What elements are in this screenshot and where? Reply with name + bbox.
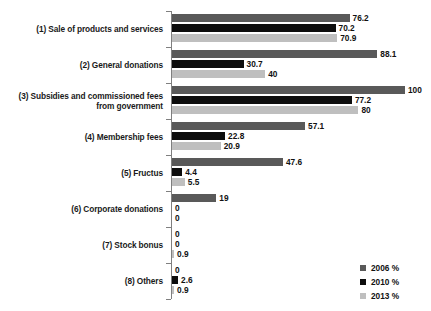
bar[interactable] bbox=[172, 142, 221, 150]
bar-value-label: 2.6 bbox=[181, 275, 193, 285]
bar[interactable] bbox=[172, 250, 174, 258]
bar-row: 20.9 bbox=[172, 142, 431, 150]
legend-item-2006[interactable]: 2006 % bbox=[360, 261, 431, 275]
bar-value-label: 0 bbox=[175, 239, 180, 249]
bar-set: 000.9 bbox=[172, 227, 431, 263]
bar-row: 4.4 bbox=[172, 168, 431, 176]
bar-row: 76.2 bbox=[172, 14, 431, 22]
bar[interactable] bbox=[172, 14, 350, 22]
category-label: (6) Corporate donations bbox=[0, 191, 166, 227]
bar-value-label: 0.9 bbox=[177, 285, 189, 295]
bar-row: 80 bbox=[172, 106, 431, 114]
bar-value-label: 0.9 bbox=[177, 249, 189, 259]
category-label: (7) Stock bonus bbox=[0, 227, 166, 263]
bar-row: 47.6 bbox=[172, 158, 431, 166]
bar-group: (3) Subsidies and commissioned fees from… bbox=[0, 83, 431, 119]
bar-value-label: 4.4 bbox=[185, 167, 197, 177]
bar[interactable] bbox=[172, 70, 265, 78]
legend-item-2010[interactable]: 2010 % bbox=[360, 275, 431, 289]
category-label: (5) Fructus bbox=[0, 155, 166, 191]
bar-row: 100 bbox=[172, 86, 431, 94]
category-label: (4) Membership fees bbox=[0, 119, 166, 155]
category-label: (3) Subsidies and commissioned fees from… bbox=[0, 83, 166, 119]
bar-group: (4) Membership fees57.122.820.9 bbox=[0, 119, 431, 155]
axis-tick bbox=[166, 299, 171, 300]
bar[interactable] bbox=[172, 86, 405, 94]
bar-row: 0.9 bbox=[172, 250, 431, 258]
bar[interactable] bbox=[172, 194, 216, 202]
bar-value-label: 57.1 bbox=[308, 121, 324, 131]
bar-value-label: 40 bbox=[268, 69, 277, 79]
bar-value-label: 80 bbox=[361, 105, 370, 115]
bar-group: (2) General donations88.130.740 bbox=[0, 47, 431, 83]
bar-value-label: 70.2 bbox=[339, 23, 355, 33]
bar[interactable] bbox=[172, 178, 185, 186]
bar[interactable] bbox=[172, 106, 358, 114]
bar-row: 0 bbox=[172, 214, 431, 222]
bar[interactable] bbox=[172, 60, 244, 68]
bar-value-label: 22.8 bbox=[228, 131, 244, 141]
bar[interactable] bbox=[172, 132, 225, 140]
bar[interactable] bbox=[172, 122, 305, 130]
bar-row: 70.2 bbox=[172, 24, 431, 32]
bar-value-label: 0 bbox=[175, 265, 180, 275]
bar-value-label: 0 bbox=[175, 229, 180, 239]
bar[interactable] bbox=[172, 168, 182, 176]
bar-row: 0 bbox=[172, 204, 431, 212]
bar-set: 10077.280 bbox=[172, 83, 431, 119]
bar-row: 0 bbox=[172, 230, 431, 238]
bar-value-label: 5.5 bbox=[188, 177, 200, 187]
bar[interactable] bbox=[172, 286, 174, 294]
bar-set: 57.122.820.9 bbox=[172, 119, 431, 155]
bar-row: 70.9 bbox=[172, 34, 431, 42]
category-label: (2) General donations bbox=[0, 47, 166, 83]
bar-value-label: 100 bbox=[408, 85, 422, 95]
bar-row: 88.1 bbox=[172, 50, 431, 58]
bar-row: 77.2 bbox=[172, 96, 431, 104]
bar-set: 1900 bbox=[172, 191, 431, 227]
bar-row: 22.8 bbox=[172, 132, 431, 140]
bar-row: 5.5 bbox=[172, 178, 431, 186]
category-label: (8) Others bbox=[0, 263, 166, 299]
bar-group: (5) Fructus47.64.45.5 bbox=[0, 155, 431, 191]
bar[interactable] bbox=[172, 96, 352, 104]
bar-group: (1) Sale of products and services76.270.… bbox=[0, 11, 431, 47]
bar-set: 76.270.270.9 bbox=[172, 11, 431, 47]
bar-value-label: 77.2 bbox=[355, 95, 371, 105]
legend-label-2006: 2006 % bbox=[371, 263, 399, 273]
bar-value-label: 0 bbox=[175, 213, 180, 223]
bar[interactable] bbox=[172, 276, 178, 284]
bar-row: 0 bbox=[172, 240, 431, 248]
bar-row: 57.1 bbox=[172, 122, 431, 130]
bar-row: 30.7 bbox=[172, 60, 431, 68]
bar-group: (7) Stock bonus000.9 bbox=[0, 227, 431, 263]
bar-value-label: 88.1 bbox=[380, 49, 396, 59]
bar-value-label: 70.9 bbox=[340, 33, 356, 43]
bar-value-label: 30.7 bbox=[247, 59, 263, 69]
bar-chart: (1) Sale of products and services76.270.… bbox=[0, 0, 431, 311]
legend-swatch-icon-2013 bbox=[360, 293, 366, 299]
bar[interactable] bbox=[172, 24, 336, 32]
bar-value-label: 20.9 bbox=[224, 141, 240, 151]
legend-label-2010: 2010 % bbox=[371, 277, 399, 287]
bar-value-label: 0 bbox=[175, 203, 180, 213]
bar-value-label: 47.6 bbox=[286, 157, 302, 167]
bar-set: 47.64.45.5 bbox=[172, 155, 431, 191]
bar[interactable] bbox=[172, 50, 377, 58]
bar-row: 40 bbox=[172, 70, 431, 78]
bar-group: (6) Corporate donations1900 bbox=[0, 191, 431, 227]
bar[interactable] bbox=[172, 34, 337, 42]
legend-item-2013[interactable]: 2013 % bbox=[360, 289, 431, 303]
bar-value-label: 19 bbox=[219, 193, 228, 203]
bar-set: 88.130.740 bbox=[172, 47, 431, 83]
category-label: (1) Sale of products and services bbox=[0, 11, 166, 47]
legend-swatch-icon-2010 bbox=[360, 279, 366, 285]
legend-label-2013: 2013 % bbox=[371, 291, 399, 301]
bar-value-label: 76.2 bbox=[353, 13, 369, 23]
bar[interactable] bbox=[172, 158, 283, 166]
legend-swatch-icon-2006 bbox=[360, 265, 366, 271]
chart-legend: 2006 % 2010 % 2013 % bbox=[360, 261, 431, 303]
bar-row: 19 bbox=[172, 194, 431, 202]
